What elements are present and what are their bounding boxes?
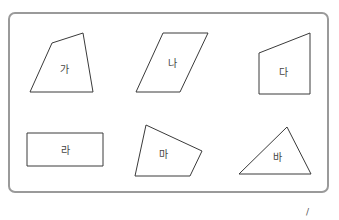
shape-ba: 바	[239, 127, 311, 174]
shape-na: 나	[136, 33, 208, 92]
corner-mark: /	[306, 207, 309, 217]
shape-ra-label: 라	[61, 145, 70, 156]
shape-ra: 라	[27, 133, 103, 166]
shape-da: 다	[259, 33, 310, 94]
shape-ba-label: 바	[273, 152, 282, 163]
shape-da-label: 다	[279, 67, 288, 78]
shape-ga: 가	[30, 33, 93, 92]
shape-da-outline	[259, 33, 310, 94]
shape-na-label: 나	[168, 58, 177, 69]
shape-ba-outline	[239, 127, 311, 174]
shape-ga-label: 가	[60, 64, 69, 75]
shape-ga-outline	[30, 33, 93, 92]
shapes-canvas: 가 나 다 라 마 바	[0, 0, 339, 220]
shape-ma-outline	[135, 125, 202, 176]
shape-ma-label: 마	[159, 149, 168, 160]
shape-ma: 마	[135, 125, 202, 176]
